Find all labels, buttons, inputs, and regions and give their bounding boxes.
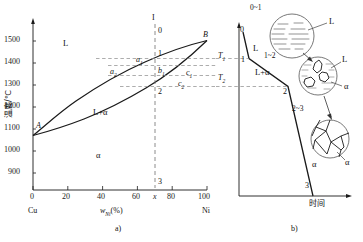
x-tick-80: 80 — [167, 193, 175, 201]
stage-label-1-2: 1~2 — [264, 52, 276, 60]
point-label-a1: a1 — [136, 56, 143, 66]
alloy-point-1: 1 — [158, 50, 162, 58]
alloy-line-label: I — [152, 14, 155, 22]
cooling-point-1: 1 — [241, 56, 245, 64]
y-tick-1100: 1100 — [4, 124, 20, 132]
point-label-c1: c1 — [186, 69, 192, 79]
cooling-point-0: 0 — [240, 26, 244, 34]
point-c1-sub: 1 — [190, 73, 193, 79]
point-label-c2: c2 — [178, 80, 184, 90]
region-label-solid: α — [96, 151, 100, 160]
cooling-point-3: 3 — [305, 182, 309, 190]
alloy-point-0: 0 — [158, 27, 162, 35]
caption-a: a) — [115, 225, 121, 233]
x-axis-right-element: Ni — [202, 207, 210, 215]
panel-b-x-axis-title: 时间 — [309, 200, 325, 208]
callout-alpha-3b: α — [345, 158, 349, 167]
temp-mark-T1: T1 — [218, 52, 225, 62]
y-tick-1000: 1000 — [4, 146, 20, 154]
temp-T2-sub: 2 — [222, 78, 225, 84]
point-b1-sub: 1 — [162, 71, 165, 77]
x-tick-alloy: x — [153, 193, 157, 201]
x-axis-title: wNi(%) — [100, 207, 123, 217]
point-a2-sub: 2 — [114, 72, 117, 78]
point-c2-sub: 2 — [182, 84, 185, 90]
panel-b-region-liquid: L — [253, 44, 258, 53]
callout-liquid-2: L — [342, 55, 347, 64]
x-tick-20: 20 — [62, 193, 70, 201]
endpoint-label-B: B — [203, 31, 208, 39]
temp-T1-sub: 1 — [222, 56, 225, 62]
region-label-two-phase: L+α — [93, 108, 107, 117]
panel-b-region-two-phase: L+α — [255, 68, 269, 77]
alloy-point-3: 3 — [158, 178, 162, 186]
stage-label-2-3: 2~3 — [292, 105, 304, 113]
x-tick-100: 100 — [198, 193, 210, 201]
y-tick-1500: 1500 — [4, 36, 20, 44]
callout-liquid-1: L — [329, 17, 334, 26]
point-a1-sub: 1 — [140, 60, 143, 66]
x-axis-left-element: Cu — [28, 207, 37, 215]
y-axis-title: 温度/℃ — [2, 90, 13, 118]
endpoint-label-A: A — [36, 122, 41, 130]
y-tick-1400: 1400 — [4, 58, 20, 66]
y-tick-1300: 1300 — [4, 80, 20, 88]
alloy-point-2: 2 — [158, 88, 162, 96]
caption-b: b) — [291, 225, 298, 233]
y-tick-900: 900 — [8, 168, 20, 176]
point-label-b1: b1 — [158, 67, 165, 77]
x-tick-0: 0 — [30, 193, 34, 201]
x-tick-40: 40 — [97, 193, 105, 201]
cooling-point-2: 2 — [283, 88, 287, 96]
x-tick-60: 60 — [132, 193, 140, 201]
stage-label-0-1: 0~1 — [250, 4, 262, 12]
region-label-liquid: L — [63, 39, 68, 48]
callout-alpha-3a: α — [312, 160, 316, 169]
x-axis-title-unit: (%) — [111, 206, 123, 215]
temp-mark-T2: T2 — [218, 74, 225, 84]
callout-alpha-2: α — [344, 82, 348, 91]
point-label-a2: a2 — [110, 68, 117, 78]
